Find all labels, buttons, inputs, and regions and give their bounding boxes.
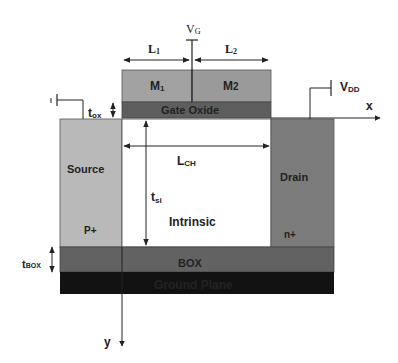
- ground-plane-label: Ground Plane: [154, 278, 233, 292]
- mosfet-cross-section-diagram: VG L1 L2 M1 M2 Gate Oxide tox VDD x y LC…: [0, 0, 398, 363]
- drain-region: [271, 119, 334, 247]
- x-axis-label: x: [366, 99, 373, 113]
- l1-label: L1: [148, 42, 160, 56]
- intrinsic-label: Intrinsic: [169, 215, 216, 229]
- l2-label: L2: [225, 42, 237, 56]
- source-label: Source: [67, 163, 104, 175]
- box-label: BOX: [178, 257, 203, 269]
- gate-oxide-label: Gate Oxide: [161, 104, 219, 116]
- drain-doping-label: n+: [284, 229, 296, 240]
- tox-label: tox: [88, 106, 102, 120]
- vg-label: VG: [186, 22, 201, 36]
- tbox-label: tBOX: [22, 258, 41, 270]
- m2-label: M2: [223, 79, 239, 93]
- y-axis-label: y: [104, 335, 111, 349]
- drain-label: Drain: [280, 171, 308, 183]
- source-doping-label: P+: [84, 225, 97, 236]
- vdd-label: VDD: [340, 80, 360, 94]
